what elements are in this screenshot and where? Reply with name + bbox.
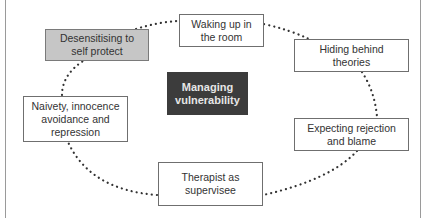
node-waking-up-in-the-room: Waking up in the room (179, 14, 264, 47)
node-therapist-as-supervisee: Therapist as supervisee (158, 162, 263, 206)
connector-hiding-expecting (362, 72, 377, 117)
node-expecting-rejection-and-blame: Expecting rejection and blame (294, 118, 409, 151)
node-naivety-innocence-avoidance-repression: Naivety, innocence avoidance and repress… (23, 96, 128, 142)
node-desensitising-to-self-protect: Desensitising to self protect (45, 29, 149, 61)
connector-therapist-naivety (68, 142, 157, 195)
connector-naivety-desensitising (62, 61, 83, 95)
node-hiding-behind-theories: Hiding behind theories (294, 39, 409, 72)
connector-expecting-therapist (263, 151, 357, 195)
connector-waking-hiding (264, 24, 309, 39)
node-managing-vulnerability: Managing vulnerability (167, 72, 248, 115)
connector-desensitising-waking (136, 21, 179, 29)
